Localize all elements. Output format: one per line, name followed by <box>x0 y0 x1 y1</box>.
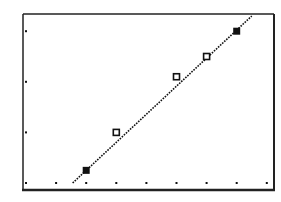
open-square-marker <box>113 129 119 135</box>
y-axis-ticks <box>25 30 27 133</box>
y-tick-dot <box>25 81 27 83</box>
open-square-marker <box>174 74 180 80</box>
x-tick-dot <box>115 182 117 184</box>
x-tick-dot <box>145 182 147 184</box>
plot-frame <box>22 14 275 190</box>
x-tick-dot <box>266 182 268 184</box>
regression-line <box>73 16 252 183</box>
x-axis-ticks <box>25 182 268 184</box>
y-tick-dot <box>25 131 27 133</box>
x-tick-dot <box>85 182 87 184</box>
scatter-plot <box>0 0 281 202</box>
x-tick-dot <box>55 182 57 184</box>
open-square-marker <box>204 54 210 60</box>
x-tick-dot <box>206 182 208 184</box>
regression-line-path <box>73 16 252 183</box>
x-tick-dot <box>25 182 27 184</box>
filled-square-marker <box>83 167 90 174</box>
x-tick-dot <box>236 182 238 184</box>
filled-square-marker <box>233 28 240 35</box>
x-tick-dot <box>176 182 178 184</box>
y-tick-dot <box>25 30 27 32</box>
